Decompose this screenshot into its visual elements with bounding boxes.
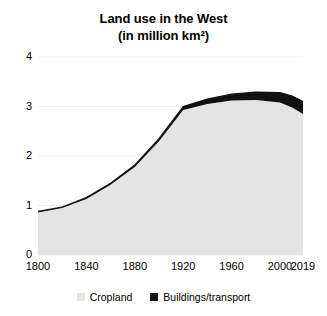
x-tick-label: 1880	[110, 260, 160, 272]
legend-swatch-cropland	[77, 293, 85, 301]
y-tick-label: 1	[6, 200, 32, 211]
legend-item-cropland[interactable]: Cropland	[77, 291, 133, 303]
chart-legend: Cropland Buildings/transport	[0, 291, 327, 303]
y-tick-label: 0	[6, 249, 32, 260]
legend-swatch-buildings-transport	[150, 293, 158, 301]
y-tick-label: 2	[6, 150, 32, 161]
x-tick-label: 1840	[61, 260, 111, 272]
legend-label-cropland: Cropland	[90, 291, 133, 303]
x-tick-label: 1960	[207, 260, 257, 272]
x-tick-label: 1800	[13, 260, 63, 272]
plot-area: 01234 1800184018801920196020002019	[0, 0, 327, 316]
legend-label-buildings-transport: Buildings/transport	[163, 291, 250, 303]
legend-item-buildings-transport[interactable]: Buildings/transport	[150, 291, 250, 303]
series-areas	[38, 92, 303, 255]
y-tick-label: 3	[6, 101, 32, 112]
x-tick-label: 2019	[278, 260, 327, 272]
x-tick-label: 1920	[158, 260, 208, 272]
chart-container: Land use in the West (in million km²) 01…	[0, 0, 327, 316]
y-tick-label: 4	[6, 51, 32, 62]
